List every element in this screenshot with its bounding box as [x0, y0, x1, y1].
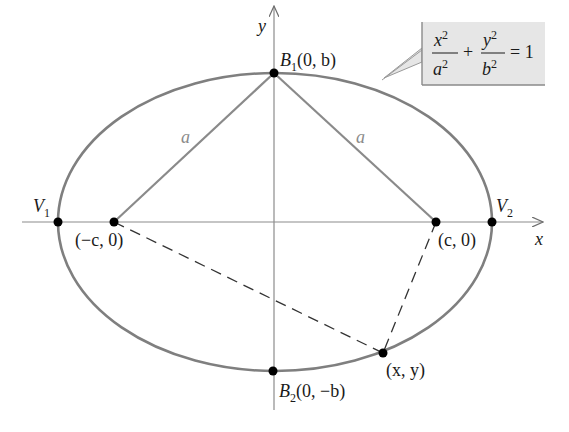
segment-label-left: a: [181, 127, 190, 147]
y-axis-label: y: [256, 16, 266, 36]
point-focus-right: [432, 218, 441, 227]
point-p: [379, 349, 388, 358]
point-v2: [488, 218, 497, 227]
label-focus-right: (c, 0): [438, 230, 476, 251]
label-point-p: (x, y): [386, 360, 425, 381]
dashed-f1-p: [114, 222, 383, 353]
label-v2: V2: [496, 196, 513, 220]
callout-pointer: [384, 48, 422, 78]
point-b2: [269, 367, 278, 376]
eq-plus: +: [463, 42, 473, 62]
x-axis-label: x: [534, 229, 543, 249]
eq-equals-one: = 1: [510, 42, 534, 62]
label-focus-left: (−c, 0): [75, 230, 123, 251]
point-b1: [270, 69, 279, 78]
point-focus-left: [110, 218, 119, 227]
label-b2: B2(0, −b): [279, 381, 345, 405]
ellipse-diagram: x2 a2 + y2 b2 = 1 y x a a B1(0, b) B2(0,…: [0, 0, 569, 432]
segment-label-right: a: [356, 127, 365, 147]
label-v1: V1: [33, 196, 50, 220]
label-b1: B1(0, b): [280, 50, 336, 74]
point-v1: [54, 218, 63, 227]
segment-f1-b1: [114, 73, 274, 222]
dashed-f2-p: [383, 222, 436, 353]
segment-f2-b1: [274, 73, 436, 222]
